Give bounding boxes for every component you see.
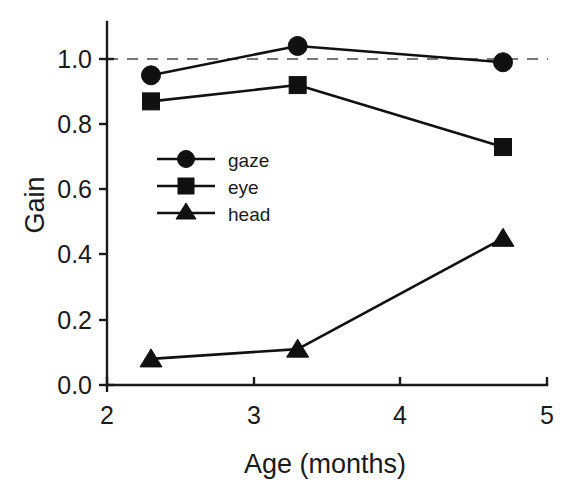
x-axis-tick-labels: 2 3 4 5 — [100, 401, 554, 429]
series-line-eye — [151, 85, 503, 147]
y-axis-title: Gain — [20, 176, 50, 233]
y-tick-label-0.6: 0.6 — [57, 175, 92, 203]
data-point-eye-3.3[interactable] — [289, 77, 306, 94]
series-markers-group — [140, 36, 514, 366]
y-tick-label-0.2: 0.2 — [57, 306, 92, 334]
y-tick-label-0.4: 0.4 — [57, 240, 92, 268]
legend-item-gaze[interactable]: gaze — [157, 150, 269, 171]
data-point-head-4.7[interactable] — [492, 228, 514, 246]
x-axis-title: Age (months) — [244, 449, 406, 479]
y-tick-label-1.0: 1.0 — [57, 45, 92, 73]
series-line-head — [151, 238, 503, 359]
data-point-eye-2.3[interactable] — [143, 93, 160, 110]
legend-label-head: head — [228, 204, 270, 225]
chart-legend: gaze eye head — [157, 150, 270, 225]
x-tick-label-3: 3 — [247, 401, 261, 429]
circle-marker-icon — [178, 151, 195, 168]
x-tick-label-4: 4 — [393, 401, 407, 429]
y-tick-label-0.8: 0.8 — [57, 110, 92, 138]
y-tick-label-0.0: 0.0 — [57, 371, 92, 399]
triangle-marker-icon — [176, 203, 196, 219]
legend-item-eye[interactable]: eye — [157, 177, 259, 198]
y-axis-tick-labels: 1.0 0.8 0.6 0.4 0.2 0.0 — [57, 45, 92, 399]
legend-label-eye: eye — [228, 177, 259, 198]
data-point-gaze-2.3[interactable] — [142, 66, 161, 85]
data-point-gaze-4.7[interactable] — [494, 53, 513, 72]
legend-label-gaze: gaze — [228, 150, 269, 171]
square-marker-icon — [178, 178, 194, 194]
data-point-gaze-3.3[interactable] — [288, 36, 307, 55]
x-tick-label-2: 2 — [100, 401, 114, 429]
series-line-gaze — [151, 46, 503, 75]
data-point-eye-4.7[interactable] — [495, 139, 512, 156]
chart-figure: 1.0 0.8 0.6 0.4 0.2 0.0 2 3 4 5 Age (mon… — [0, 0, 571, 488]
line-chart: 1.0 0.8 0.6 0.4 0.2 0.0 2 3 4 5 Age (mon… — [0, 0, 571, 488]
data-point-head-3.3[interactable] — [287, 339, 309, 357]
x-tick-label-5: 5 — [540, 401, 554, 429]
legend-item-head[interactable]: head — [157, 203, 270, 225]
series-lines-group — [151, 46, 503, 359]
